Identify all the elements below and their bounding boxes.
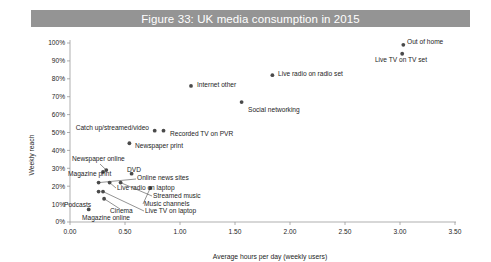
y-tick-label: 50% [52,129,65,136]
chart-axes [70,40,456,222]
data-point-label: Online news sites [137,174,189,181]
data-point [102,197,106,201]
data-point-marker [87,208,91,212]
data-point-label: Streamed music [153,192,201,199]
data-point-label: DVD [127,166,141,173]
y-axis-title: Weekly reach [28,134,36,175]
y-tick-label: 20% [52,183,65,190]
data-point-label: Music channels [144,200,190,207]
figure-title-bar: Figure 33: UK media consumption in 2015 [31,10,470,27]
y-tick-label: 60% [52,111,65,118]
data-point-marker [102,197,106,201]
data-point [101,190,105,194]
x-tick-label: 2.50 [339,228,352,235]
data-point-marker [127,141,131,145]
data-point-label: Live radio on radio set [278,70,343,77]
data-point [240,100,244,104]
data-point-label: Live radio on laptop [117,184,175,192]
y-axis-ticks: 0%10%20%30%40%50%60%70%80%90%100% [48,39,70,225]
x-tick-label: 2.00 [284,228,297,235]
page-title: Figure 33: UK media consumption in 2015 [141,13,360,25]
x-tick-label: 3.50 [449,228,462,235]
y-tick-label: 90% [52,57,65,64]
data-point-label: Podcasts [64,201,92,208]
data-point-marker [189,84,193,88]
leader-online-news-sites [99,179,136,183]
data-point-label: Social networking [248,106,300,114]
data-point-label: Magazine online [82,214,130,222]
y-tick-label: 100% [48,39,65,46]
x-axis-title: Average hours per day (weekly users) [213,253,327,261]
data-point-label: Out of home [407,38,444,45]
data-point-label: Cinema [110,207,133,214]
x-axis-ticks: 0.000.501.001.502.002.503.003.50 [64,222,462,235]
x-tick-label: 3.00 [394,228,407,235]
data-point-label: Catch up/streamed/video [76,124,150,132]
data-point [153,129,157,133]
data-point [189,84,193,88]
data-point-label: Internet other [197,81,237,88]
data-point-marker [401,43,405,47]
data-point-marker [97,181,101,185]
data-point-marker [240,100,244,104]
data-point-label: Live TV on TV set [375,56,427,63]
y-tick-label: 80% [52,75,65,82]
data-point-marker [108,181,112,185]
y-tick-label: 70% [52,93,65,100]
data-point [97,181,101,185]
data-point [87,208,91,212]
data-point [127,141,131,145]
data-point-label: Live TV on laptop [145,207,197,215]
figure-container: Figure 33: UK media consumption in 2015 … [0,0,491,262]
data-point-label: Newspaper online [72,155,125,163]
x-tick-label: 0.50 [119,228,132,235]
y-tick-label: 0% [55,218,65,225]
data-point-marker [162,129,166,133]
data-point-label: Magazine print [68,170,111,178]
data-point [97,190,101,194]
axis-lines [70,40,456,222]
x-tick-label: 1.00 [174,228,187,235]
y-tick-label: 40% [52,147,65,154]
data-point-label: Recorded TV on PVR [170,130,234,137]
data-point-marker [101,190,105,194]
data-point [401,43,405,47]
data-point-marker [153,129,157,133]
data-point [108,181,112,185]
scatter-chart: 0.000.501.001.502.002.503.003.50 0%10%20… [0,27,491,262]
data-point [271,73,275,77]
x-tick-label: 0.00 [64,228,77,235]
x-tick-label: 1.50 [229,228,242,235]
data-point-label: Newspaper print [135,142,183,150]
data-point [162,129,166,133]
data-point-labels: Out of homeLive TV on TV setLive radio o… [64,38,444,222]
y-tick-label: 30% [52,165,65,172]
data-point-marker [271,73,275,77]
data-point-marker [97,190,101,194]
chart-plot-area: 0.000.501.001.502.002.503.003.50 0%10%20… [0,27,491,262]
